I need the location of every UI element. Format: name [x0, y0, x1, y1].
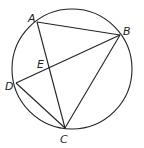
- segment-ac: [37, 22, 65, 128]
- label-a: A: [27, 12, 36, 25]
- label-b: B: [123, 25, 131, 38]
- segment-ab: [37, 22, 120, 35]
- label-e: E: [37, 58, 44, 71]
- segment-dc: [16, 83, 65, 128]
- label-c: C: [60, 133, 68, 146]
- geometry-diagram: A B C D E: [0, 0, 144, 148]
- segment-bd: [16, 35, 120, 83]
- label-d: D: [5, 80, 13, 93]
